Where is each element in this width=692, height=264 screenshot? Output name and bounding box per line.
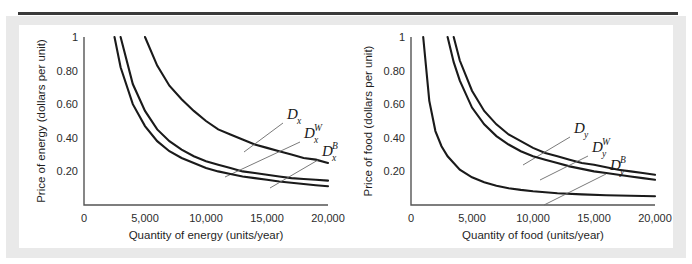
curve-label-subscript: x	[331, 153, 337, 163]
y-axis-tick-label: 0.80	[384, 65, 405, 77]
axis-lines	[411, 37, 655, 205]
curve-label-d_y-w: DyW	[591, 137, 611, 159]
x-axis-tick-label: 10,000	[516, 212, 550, 224]
curve-label-subscript: y	[619, 167, 625, 177]
x-axis-tick-label: 20,000	[638, 212, 672, 224]
y-axis-tick-label: 0.60	[384, 98, 405, 110]
x-axis-tick-label: 5,000	[458, 212, 486, 224]
curve-label-d_x-w: DxW	[303, 123, 323, 145]
x-axis-tick-label: 0	[81, 212, 87, 224]
y-axis-tick-label: 0.80	[57, 65, 78, 77]
curve-label-superscript: B	[620, 155, 626, 165]
x-axis-tick-label: 0	[408, 212, 414, 224]
curve-label-superscript: W	[602, 137, 611, 147]
y-axis-tick-label: 0.40	[384, 132, 405, 144]
food-market-plot: 0.200.400.600.80105,00010,00015,00020,00…	[346, 25, 673, 248]
x-axis-title: Quantity of energy (units/year)	[129, 229, 284, 241]
curve-label-d_x: Dx	[286, 106, 302, 126]
y-axis-tick-label: 0.40	[57, 132, 78, 144]
y-axis-title: Price of energy (dollars per unit)	[35, 39, 47, 203]
curve-label-d_y: Dy	[573, 120, 589, 140]
y-axis-tick-label: 1	[72, 31, 78, 43]
figure-top-rule	[18, 12, 678, 15]
chart-panel-energy-market: 0.200.400.600.80105,00010,00015,00020,00…	[19, 25, 346, 248]
x-axis-title: Quantity of food (units/year)	[462, 229, 604, 241]
x-axis-tick-label: 20,000	[311, 212, 345, 224]
curve-label-d_x-b: DxB	[321, 141, 338, 163]
chart-panel-food-market: 0.200.400.600.80105,00010,00015,00020,00…	[346, 25, 673, 248]
x-axis-tick-label: 10,000	[189, 212, 223, 224]
energy-market-plot: 0.200.400.600.80105,00010,00015,00020,00…	[19, 25, 346, 248]
figure-root: 0.200.400.600.80105,00010,00015,00020,00…	[0, 0, 692, 264]
y-axis-title: Price of food (dollars per unit)	[362, 45, 374, 196]
y-axis-tick-label: 0.60	[57, 98, 78, 110]
curve-label-subscript: x	[313, 135, 319, 145]
x-axis-tick-label: 15,000	[577, 212, 611, 224]
curve-label-leader-line	[544, 174, 606, 205]
curve-label-subscript: x	[296, 116, 302, 126]
y-axis-tick-label: 0.20	[384, 165, 405, 177]
figure-plate: 0.200.400.600.80105,00010,00015,00020,00…	[19, 25, 673, 248]
y-axis-tick-label: 0.20	[57, 165, 78, 177]
x-axis-tick-label: 5,000	[131, 212, 159, 224]
y-axis-tick-label: 1	[399, 31, 405, 43]
x-axis-tick-label: 15,000	[250, 212, 284, 224]
curve-label-subscript: y	[583, 130, 589, 140]
curve-label-superscript: W	[314, 123, 323, 133]
curve-label-subscript: y	[601, 149, 607, 159]
curve-label-superscript: B	[332, 141, 338, 151]
